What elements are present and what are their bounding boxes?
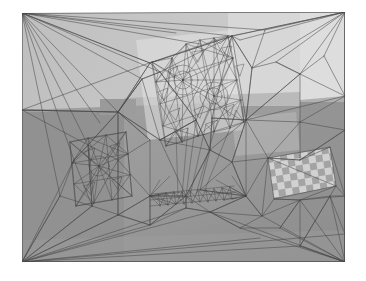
triangulated-mesh-figure	[0, 0, 366, 281]
scene-photo	[22, 12, 345, 262]
photo-grain	[22, 12, 345, 262]
figure-stage	[0, 0, 366, 281]
